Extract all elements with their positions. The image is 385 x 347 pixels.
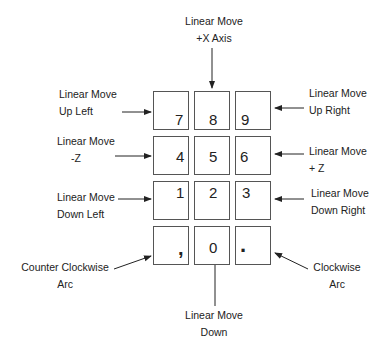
key-8[interactable]: 8 [194, 91, 230, 130]
key-label: 1 [176, 185, 184, 200]
key-5[interactable]: 5 [194, 136, 230, 175]
key-4[interactable]: 4 [153, 136, 189, 175]
callout-key1: Linear Move Down Left [57, 189, 115, 223]
key-label: 7 [175, 112, 183, 127]
callout-key9: Linear Move Up Right [309, 85, 367, 119]
callout-key3: Linear Move Down Right [311, 185, 369, 219]
key-7[interactable]: 7 [153, 91, 189, 130]
callout-keycomma: Counter Clockwise Arc [19, 259, 111, 293]
key-period[interactable]: . [235, 226, 271, 265]
key-label: . [240, 237, 246, 252]
keypad-diagram: 7 8 9 4 5 6 1 2 3 , 0 . Linear Move +X A… [0, 0, 385, 347]
callout-keyperiod: Clockwise Arc [312, 259, 362, 293]
key-label: 0 [209, 240, 217, 255]
key-comma[interactable]: , [153, 226, 189, 265]
key-9[interactable]: 9 [235, 91, 271, 130]
key-label: , [178, 241, 184, 256]
callout-key7: Linear Move Up Left [59, 86, 117, 120]
key-label: 6 [240, 149, 248, 164]
key-3[interactable]: 3 [235, 181, 271, 220]
key-label: 4 [176, 149, 184, 164]
callout-key4: Linear Move -Z [57, 133, 115, 167]
key-0[interactable]: 0 [194, 226, 230, 265]
leader-keycomma [114, 256, 151, 269]
callout-key6: Linear Move + Z [309, 143, 367, 177]
key-label: 9 [241, 112, 249, 127]
key-6[interactable]: 6 [235, 136, 271, 175]
key-label: 2 [209, 185, 217, 200]
key-2[interactable]: 2 [194, 181, 230, 220]
callout-key8: Linear Move +X Axis [181, 13, 247, 47]
key-label: 3 [242, 185, 250, 200]
key-1[interactable]: 1 [153, 181, 189, 220]
leader-keyperiod [275, 253, 308, 269]
key-label: 5 [209, 149, 217, 164]
key-label: 8 [209, 112, 217, 127]
callout-key0: Linear Move Down [181, 307, 247, 341]
